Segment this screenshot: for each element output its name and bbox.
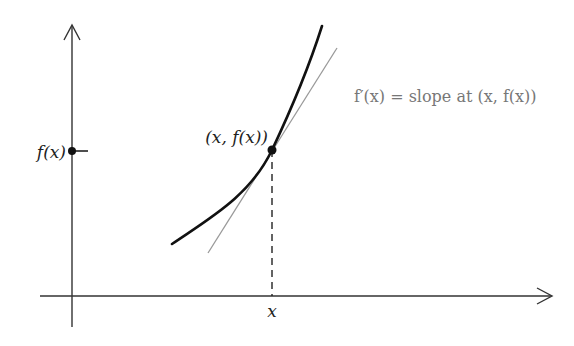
tangent-annotation: f′(x) = slope at (x, f(x)) — [354, 87, 537, 106]
y-axis — [64, 25, 80, 327]
diagram-canvas: f(x) (x, f(x)) f′(x) = slope at (x, f(x)… — [0, 0, 574, 346]
x-axis — [40, 288, 552, 304]
x-value-label: x — [267, 301, 277, 321]
y-value-label: f(x) — [35, 142, 66, 162]
tangent-point — [268, 146, 277, 155]
point-label: (x, f(x)) — [205, 127, 268, 147]
y-axis-point — [68, 147, 76, 155]
